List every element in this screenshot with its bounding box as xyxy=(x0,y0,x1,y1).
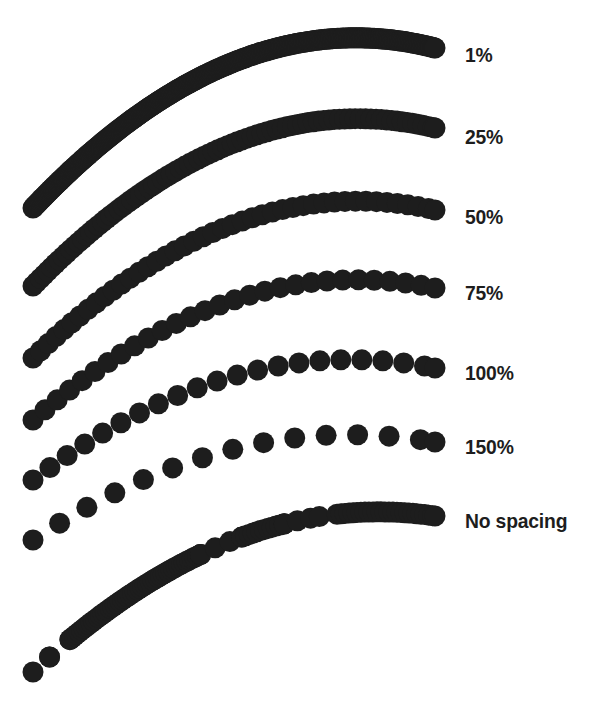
stroke-dot xyxy=(148,393,169,414)
stroke-dot xyxy=(39,647,60,668)
stroke-dot xyxy=(49,513,70,534)
stroke-dot xyxy=(162,457,183,478)
stroke-dot xyxy=(222,439,243,460)
stroke-dot xyxy=(425,200,446,221)
stroke-dot xyxy=(309,506,330,527)
stroke-dot xyxy=(23,662,44,683)
stroke-dot xyxy=(425,278,446,299)
stroke-dot xyxy=(284,428,305,449)
stroke-dot xyxy=(167,385,188,406)
stroke-dot xyxy=(330,349,351,370)
stroke-dot xyxy=(192,447,213,468)
figure-root: 1% 25% 50% 75% 100% 150% No spacing xyxy=(0,0,599,708)
dot-stroke-canvas xyxy=(0,0,599,708)
stroke-dot xyxy=(316,425,337,446)
stroke-dot xyxy=(379,426,400,447)
stroke-dot xyxy=(57,445,78,466)
stroke-dot xyxy=(347,424,368,445)
stroke-dot xyxy=(268,356,289,377)
stroke-dot xyxy=(372,350,393,371)
stroke-dot xyxy=(39,457,60,478)
stroke-dot xyxy=(92,423,113,444)
stroke-dot xyxy=(187,377,208,398)
stroke-dot xyxy=(425,358,446,379)
stroke-dot xyxy=(393,352,414,373)
stroke-dot xyxy=(425,506,446,527)
stroke-dot xyxy=(74,434,95,455)
stroke-dot xyxy=(23,470,44,491)
stroke-dot xyxy=(425,432,446,453)
stroke-dot xyxy=(104,482,125,503)
stroke-dot xyxy=(425,118,446,139)
stroke-dot xyxy=(133,469,154,490)
stroke-dot xyxy=(309,350,330,371)
stroke-dot xyxy=(207,371,228,392)
stroke-dot xyxy=(288,352,309,373)
stroke-dot xyxy=(129,402,150,423)
stroke-dot xyxy=(76,497,97,518)
stroke-dot xyxy=(351,349,372,370)
stroke-dot xyxy=(110,412,131,433)
stroke-dot xyxy=(253,432,274,453)
stroke-dot xyxy=(425,38,446,59)
stroke-dot xyxy=(23,530,44,551)
stroke-dot xyxy=(227,365,248,386)
stroke-dot xyxy=(247,360,268,381)
